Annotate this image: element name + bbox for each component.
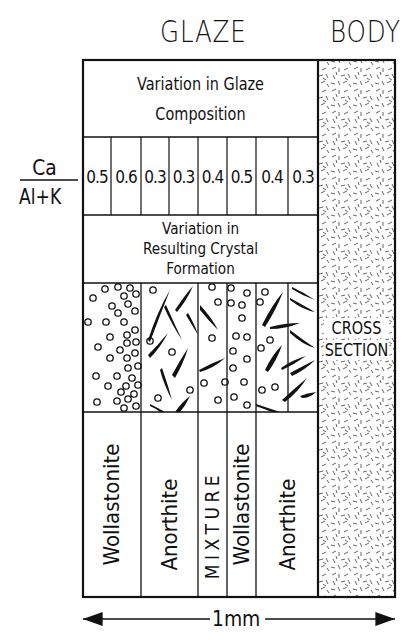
ratio-numerator: Ca <box>32 155 57 180</box>
composition-label-line1: Variation in Glaze <box>101 74 301 94</box>
ratio-value: 0.3 <box>170 167 196 187</box>
ratio-value: 0.5 <box>84 167 109 187</box>
crystal-type-wollastonite-2: Wollastonite <box>227 412 256 597</box>
mixture-pattern <box>199 305 225 372</box>
scale-label: 1mm <box>212 606 260 631</box>
ratio-value: 0.6 <box>113 167 140 187</box>
crystal-label-line1: Variation in <box>101 219 301 238</box>
crystal-type-anorthite-1: Anorthite <box>141 412 198 597</box>
composition-label-line2: Composition <box>101 104 301 124</box>
ratio-value: 0.4 <box>199 167 225 187</box>
ratio-value: 0.4 <box>258 167 287 187</box>
wollastonite-circles-1 <box>85 284 141 411</box>
crystal-type-mixture: MIXTURE <box>198 412 227 597</box>
body-label-line1: CROSS <box>324 318 389 338</box>
ratio-value: 0.3 <box>290 167 317 187</box>
wollastonite-circles-2 <box>228 285 250 408</box>
crystal-type-anorthite-2: Anorthite <box>256 412 318 597</box>
anorthite-needles-2 <box>256 287 316 412</box>
ratio-value: 0.3 <box>142 167 167 187</box>
ratio-denominator: Al+K <box>19 184 61 209</box>
crystal-label-line3: Formation <box>101 259 301 278</box>
body-label-line2: SECTION <box>324 340 389 360</box>
ratio-value: 0.5 <box>228 167 254 187</box>
crystal-label-line2: Resulting Crystal <box>101 239 301 258</box>
crystal-type-wollastonite-1: Wollastonite <box>83 412 141 597</box>
